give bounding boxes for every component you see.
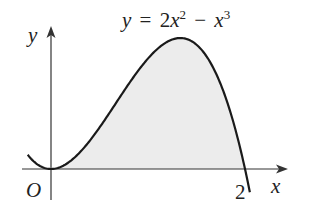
equation-minus: − bbox=[194, 8, 206, 32]
x-tick-label-2: 2 bbox=[235, 180, 246, 204]
x-axis-label: x bbox=[270, 174, 281, 198]
equation-lhs: y bbox=[120, 8, 132, 32]
equation-label: y = 2x2 − x3 bbox=[120, 0, 230, 32]
equation-term2-exp: 3 bbox=[224, 7, 231, 22]
y-axis-label: y bbox=[26, 23, 38, 47]
chart-figure: y x O 2 y = 2x2 − x3 bbox=[0, 0, 309, 207]
equation-equals: = bbox=[140, 8, 152, 32]
equation-term1-exp: 2 bbox=[180, 7, 187, 22]
equation-coef: 2 bbox=[160, 8, 171, 32]
origin-label: O bbox=[26, 178, 41, 202]
